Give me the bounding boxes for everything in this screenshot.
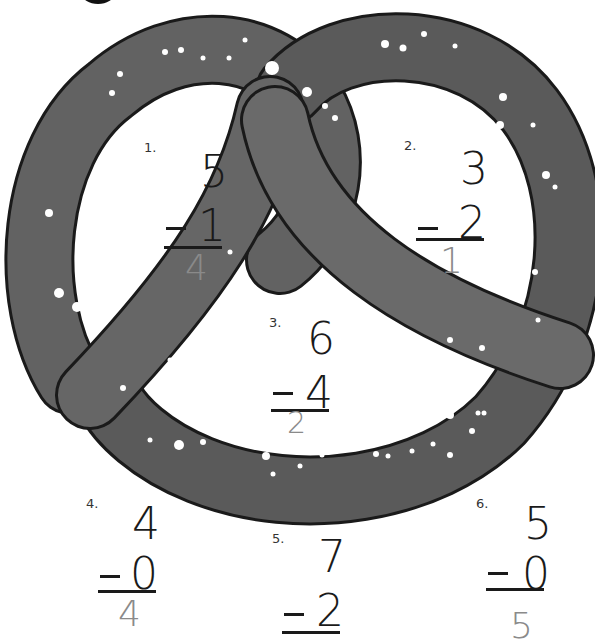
minuend: 7 [318, 535, 346, 579]
answer[interactable]: 1 [440, 243, 463, 279]
minuend: 4 [132, 502, 160, 546]
problem-5: 5. 7 2 [262, 525, 372, 638]
problem-number: 5. [272, 531, 284, 546]
problem-number: 2. [404, 138, 416, 153]
problem-4: 4. 4 0 4 [80, 490, 190, 638]
answer[interactable]: 2 [287, 408, 306, 438]
minus-sign [166, 227, 186, 230]
problem-6: 6. 5 0 5 [470, 490, 590, 638]
problem-number: 1. [144, 140, 156, 155]
problem-number: 4. [86, 496, 98, 511]
problem-number: 3. [269, 315, 281, 330]
minus-sign [273, 392, 293, 395]
minus-sign [284, 613, 304, 616]
answer-line [282, 631, 340, 634]
answer[interactable]: 4 [185, 250, 208, 286]
answer[interactable]: 5 [510, 608, 533, 643]
problem-number: 6. [476, 496, 488, 511]
problem-2: 2. 3 2 1 [400, 135, 510, 285]
minuend: 3 [460, 147, 488, 191]
minuend: 5 [524, 502, 552, 546]
subtrahend: 2 [316, 589, 344, 633]
problem-1: 1. 5 1 4 [140, 140, 250, 280]
minus-sign [418, 227, 438, 230]
minus-sign [488, 572, 508, 575]
problem-3: 3. 6 4 2 [265, 305, 365, 440]
minuend: 6 [307, 317, 335, 361]
answer[interactable]: 4 [118, 596, 141, 632]
subtrahend: 1 [198, 204, 226, 248]
answer-line [486, 588, 544, 591]
minuend: 5 [200, 150, 228, 194]
minus-sign [100, 575, 120, 578]
corner-circle-icon [82, 0, 114, 4]
